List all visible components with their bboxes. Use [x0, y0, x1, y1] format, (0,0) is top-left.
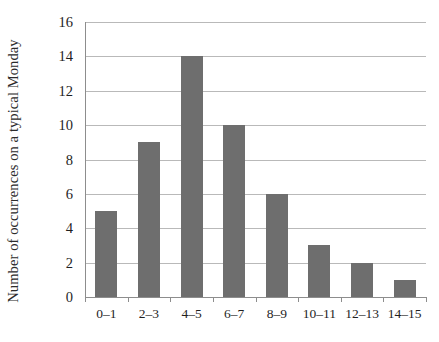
x-axis-tick-mark [85, 297, 86, 302]
x-axis-tick-mark [341, 297, 342, 302]
bar [266, 194, 288, 297]
x-axis-tick-mark [128, 297, 129, 302]
y-axis-tick-label: 12 [45, 84, 79, 99]
x-axis-tick-mark [426, 297, 427, 302]
x-axis-tick-mark [170, 297, 171, 302]
bar [394, 280, 416, 297]
gridline [85, 56, 426, 57]
x-axis-tick-mark [383, 297, 384, 302]
x-axis-tick-label: 8–9 [267, 306, 287, 322]
y-axis-tick-label: 8 [45, 152, 79, 167]
y-axis-title: Number of occurrences on a typical Monda… [0, 0, 26, 342]
x-axis-tick-mark [256, 297, 257, 302]
y-axis-tick-label: 14 [45, 49, 79, 64]
x-axis-tick-label: 0–1 [96, 306, 116, 322]
y-axis-tick-label: 2 [45, 255, 79, 270]
y-axis-line [85, 22, 86, 298]
bar [95, 211, 117, 297]
y-axis-tick-label: 6 [45, 187, 79, 202]
histogram-chart: Number of occurrences on a typical Monda… [0, 0, 439, 342]
x-axis-tick-label: 4–5 [181, 306, 201, 322]
y-axis-tick-label: 16 [45, 15, 79, 30]
gridline [85, 263, 426, 264]
x-axis-tick-label: 2–3 [139, 306, 159, 322]
bar [351, 263, 373, 297]
y-axis-tick-label: 4 [45, 221, 79, 236]
plot-area [85, 22, 426, 297]
x-axis-tick-label: 10–11 [303, 306, 336, 322]
gridline [85, 228, 426, 229]
y-axis-tick-label: 0 [45, 290, 79, 305]
x-axis-tick-label: 14–15 [388, 306, 422, 322]
gridline [85, 160, 426, 161]
gridline [85, 91, 426, 92]
x-axis-tick-label: 6–7 [224, 306, 244, 322]
bar [223, 125, 245, 297]
bar [181, 56, 203, 297]
y-axis-tick-labels: 0246810121416 [45, 0, 79, 342]
x-axis-tick-mark [213, 297, 214, 302]
bar [308, 245, 330, 297]
x-axis-tick-label: 12–13 [345, 306, 379, 322]
gridline [85, 194, 426, 195]
gridline [85, 22, 426, 23]
bar [138, 142, 160, 297]
y-axis-tick-label: 10 [45, 118, 79, 133]
x-axis-tick-mark [298, 297, 299, 302]
gridline [85, 125, 426, 126]
